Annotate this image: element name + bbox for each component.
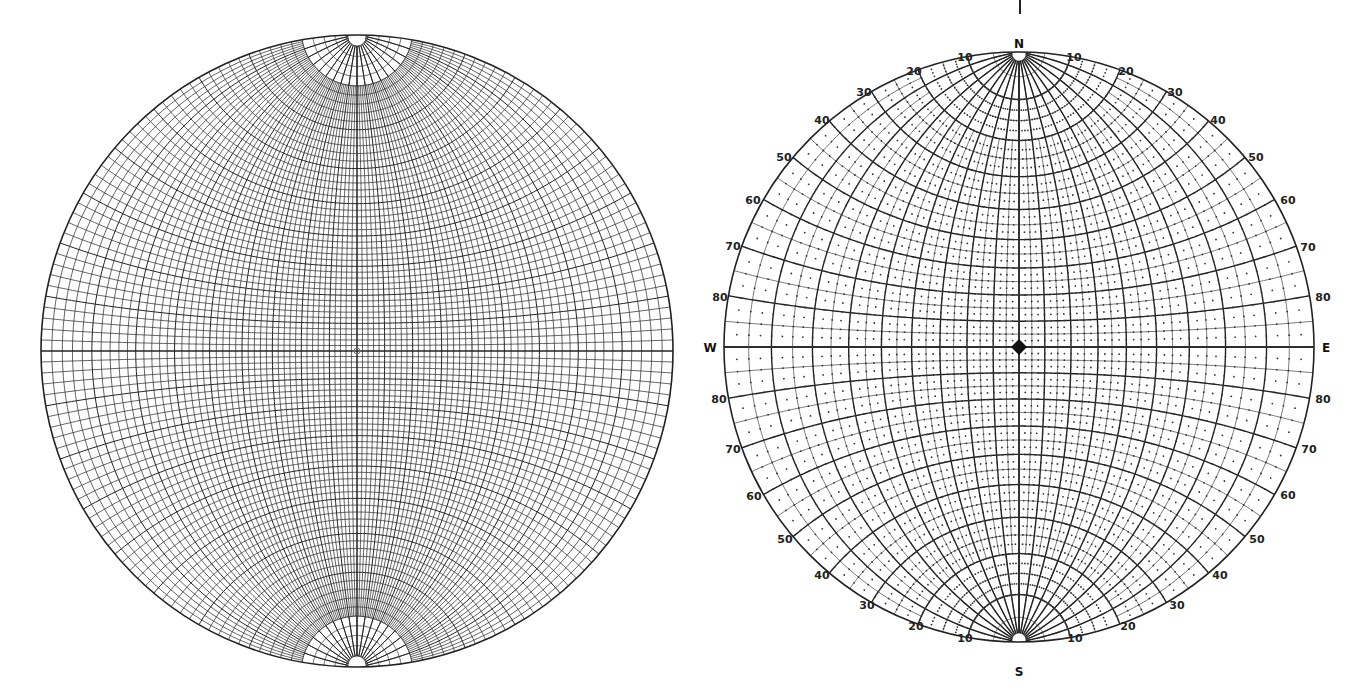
- degree-label-tl-60: 60: [745, 194, 760, 207]
- south-pole-mark: [1012, 633, 1026, 647]
- north-label: N: [1014, 37, 1024, 51]
- degree-label-tr-50: 50: [1248, 151, 1263, 164]
- degree-label-bl-70: 70: [725, 443, 740, 456]
- stereonet-figure: N S E W 10 20 30 40 50 60 70 80 10 20 30…: [0, 0, 1372, 690]
- left-stereonet: [41, 28, 673, 674]
- degree-label-br-60: 60: [1280, 489, 1295, 502]
- east-label: E: [1322, 341, 1330, 355]
- center-diamond-icon: [1011, 339, 1027, 355]
- right-stereonet: [724, 47, 1314, 647]
- stereonet-canvas: [0, 0, 1372, 690]
- degree-label-br-10: 10: [1067, 632, 1082, 645]
- degree-label-tr-70: 70: [1300, 241, 1315, 254]
- west-label: W: [703, 341, 716, 355]
- degree-label-bl-20: 20: [908, 620, 923, 633]
- degree-label-br-80: 80: [1315, 393, 1330, 406]
- degree-label-tl-40: 40: [814, 114, 829, 127]
- degree-label-br-70: 70: [1301, 443, 1316, 456]
- degree-label-tl-50: 50: [776, 151, 791, 164]
- degree-label-br-50: 50: [1249, 533, 1264, 546]
- degree-label-tr-60: 60: [1280, 194, 1295, 207]
- degree-label-tr-40: 40: [1210, 114, 1225, 127]
- degree-label-tl-20: 20: [906, 65, 921, 78]
- degree-label-tl-30: 30: [856, 86, 871, 99]
- top-tick-mark: [1019, 0, 1021, 14]
- degree-label-tl-70: 70: [725, 240, 740, 253]
- degree-label-tr-10: 10: [1066, 51, 1081, 64]
- degree-label-bl-10: 10: [957, 632, 972, 645]
- degree-label-bl-30: 30: [859, 599, 874, 612]
- degree-label-tr-20: 20: [1118, 65, 1133, 78]
- degree-label-bl-80: 80: [711, 393, 726, 406]
- degree-label-tl-80: 80: [712, 291, 727, 304]
- south-pole-mark: [348, 656, 366, 674]
- degree-label-br-30: 30: [1169, 599, 1184, 612]
- degree-label-tr-30: 30: [1167, 86, 1182, 99]
- degree-label-tr-80: 80: [1315, 291, 1330, 304]
- degree-label-tl-10: 10: [957, 51, 972, 64]
- north-pole-mark: [348, 28, 366, 46]
- degree-label-br-20: 20: [1120, 620, 1135, 633]
- degree-label-bl-60: 60: [746, 490, 761, 503]
- south-label: S: [1015, 665, 1024, 679]
- degree-label-bl-40: 40: [814, 569, 829, 582]
- degree-label-br-40: 40: [1212, 569, 1227, 582]
- degree-label-bl-50: 50: [777, 533, 792, 546]
